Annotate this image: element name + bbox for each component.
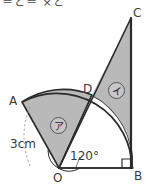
vertex-label-b: B: [134, 170, 142, 182]
top-cut-text: ＝と＝ ×と: [2, 0, 65, 9]
geometry-figure: ＝と＝ ×と A B C D O 3cm 120° ア イ: [0, 0, 148, 191]
angle-measurement-label: 120°: [70, 150, 99, 162]
vertex-label-d: D: [83, 83, 92, 95]
region-label-a: ア: [50, 117, 67, 134]
vertex-label-o: O: [53, 172, 62, 184]
radius-measurement-label: 3cm: [10, 138, 36, 150]
vertex-label-c: C: [133, 7, 141, 19]
vertex-label-a: A: [9, 95, 17, 107]
region-label-i: イ: [108, 82, 125, 99]
